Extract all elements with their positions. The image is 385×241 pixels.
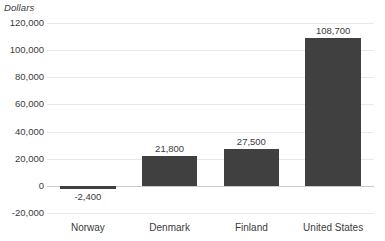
y-axis-tick-label: 40,000 — [0, 127, 44, 137]
bar[interactable] — [142, 156, 198, 186]
y-axis-tick-label: 100,000 — [0, 45, 44, 55]
x-axis-category-label: United States — [292, 222, 374, 234]
bar-value-label: 27,500 — [211, 136, 293, 147]
bar-value-label: 21,800 — [129, 143, 211, 154]
bar-chart: Dollars -2,40021,80027,500108,700 Norway… — [0, 0, 385, 241]
bar-slot: 27,500 — [211, 23, 293, 213]
bar-slot: -2,400 — [47, 23, 129, 213]
x-axis-category-slot: United States — [292, 222, 374, 236]
bar[interactable] — [60, 186, 116, 189]
x-axis-category-row: NorwayDenmarkFinlandUnited States — [47, 222, 374, 236]
y-axis-title: Dollars — [4, 2, 34, 13]
x-axis-category-slot: Norway — [47, 222, 129, 236]
bar[interactable] — [305, 38, 361, 186]
x-axis-category-label: Norway — [47, 222, 129, 234]
y-axis-tick-label: 20,000 — [0, 154, 44, 164]
bar[interactable] — [224, 149, 280, 186]
bar-slot: 21,800 — [129, 23, 211, 213]
bar-value-label: 108,700 — [292, 25, 374, 36]
y-axis-tick-label: 120,000 — [0, 18, 44, 28]
y-axis-tick-label: -20,000 — [0, 208, 44, 218]
x-axis-category-label: Denmark — [129, 222, 211, 234]
x-axis-category-slot: Finland — [211, 222, 293, 236]
gridline — [47, 213, 374, 214]
x-axis-category-slot: Denmark — [129, 222, 211, 236]
y-axis-tick-label: 80,000 — [0, 72, 44, 82]
plot-area: -2,40021,80027,500108,700 — [47, 23, 374, 213]
y-axis-tick-label: 0 — [0, 181, 44, 191]
bar-slot: 108,700 — [292, 23, 374, 213]
x-axis-category-label: Finland — [211, 222, 293, 234]
bar-value-label: -2,400 — [47, 191, 129, 202]
y-axis-tick-label: 60,000 — [0, 99, 44, 109]
